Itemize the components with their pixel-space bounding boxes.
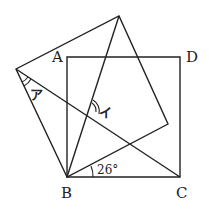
square-abcd (67, 57, 180, 177)
label-a: A (51, 48, 63, 66)
label-angle-26: 26° (97, 163, 118, 177)
label-c: C (176, 184, 187, 202)
label-b: B (61, 184, 72, 202)
geometry-diagram: A D B C ア イ 26° (0, 0, 209, 209)
label-angle-i: イ (99, 105, 112, 120)
angle-26-arc (91, 166, 93, 177)
angle-a-arc-inner (22, 77, 28, 82)
angle-i-arc-inner (92, 103, 96, 112)
label-angle-a: ア (30, 87, 43, 102)
line-b-to-q (67, 16, 119, 177)
label-d: D (186, 48, 198, 66)
